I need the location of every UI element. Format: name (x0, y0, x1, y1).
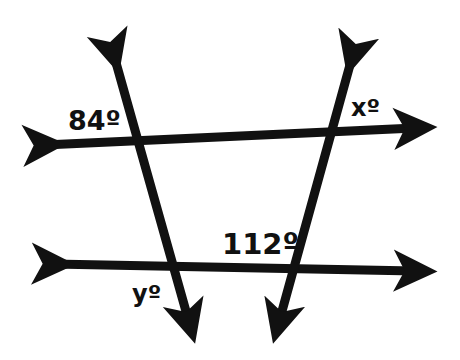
angle-label-x: xº (351, 96, 380, 120)
angle-label-112: 112º (222, 230, 299, 259)
lower-horizontal-line (53, 264, 415, 271)
geometry-diagram-canvas: 84º xº 112º yº (0, 0, 460, 360)
angle-label-84: 84º (68, 107, 121, 134)
angle-label-y: yº (132, 282, 161, 306)
right-transversal-line (279, 54, 353, 322)
geometry-figure (0, 0, 460, 360)
